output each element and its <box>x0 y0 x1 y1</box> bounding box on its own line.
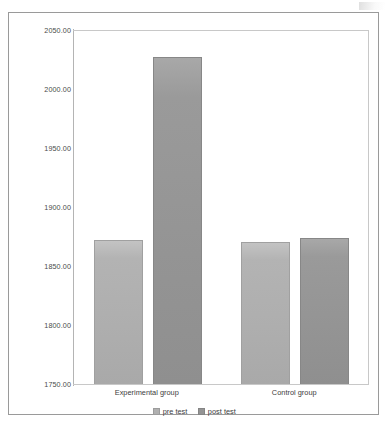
bar-body <box>153 57 202 384</box>
y-axis-tick-label: 1850.00 <box>13 262 71 271</box>
bar-pre-test-control-group <box>241 242 290 384</box>
legend-item-post-test: post test <box>198 407 235 416</box>
y-axis: 1750.001800.001850.001900.001950.002000.… <box>9 13 71 414</box>
bar-body <box>94 240 143 384</box>
chart-frame: 1750.001800.001850.001900.001950.002000.… <box>8 12 379 415</box>
plot-area <box>74 30 369 384</box>
y-axis-tick-label: 2050.00 <box>13 26 71 35</box>
legend-label: pre test <box>163 407 188 416</box>
legend-label: post test <box>208 407 236 416</box>
legend-swatch-icon <box>198 408 205 415</box>
bar-pre-test-experimental-group <box>94 240 143 384</box>
scan-artifact <box>359 2 385 10</box>
y-axis-tick-label: 2000.00 <box>13 85 71 94</box>
bar-post-test-control-group <box>300 238 349 384</box>
bar-body <box>300 238 349 384</box>
bar-post-test-experimental-group <box>153 57 202 384</box>
bar-body <box>241 242 290 384</box>
y-axis-tick-label: 1750.00 <box>13 380 71 389</box>
y-axis-tick-label: 1900.00 <box>13 203 71 212</box>
chart-legend: pre testpost test <box>9 407 380 416</box>
y-axis-tick-label: 1950.00 <box>13 144 71 153</box>
legend-item-pre-test: pre test <box>153 407 187 416</box>
category-axis: Experimental groupControl group <box>73 388 369 402</box>
legend-swatch-icon <box>153 408 160 415</box>
y-axis-tick-label: 1800.00 <box>13 321 71 330</box>
category-label: Experimental group <box>115 388 179 397</box>
category-label: Control group <box>272 388 317 397</box>
